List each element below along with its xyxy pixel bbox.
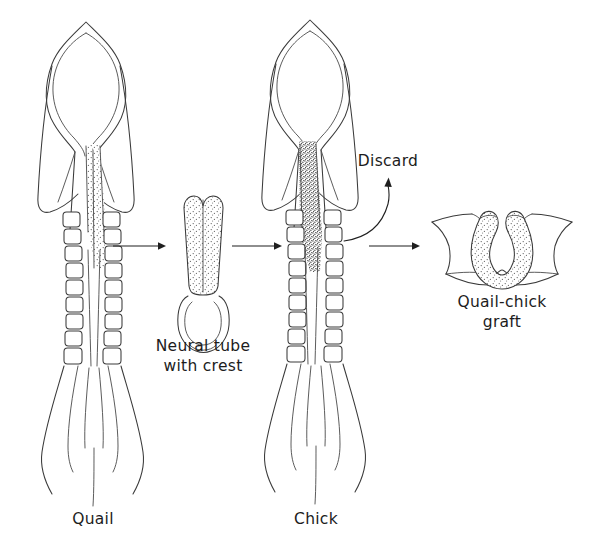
graft-host-right-body xyxy=(554,222,572,274)
diagram-root: Neural tube with crest xyxy=(0,0,591,544)
graft-host-left-body xyxy=(432,222,450,274)
discard-arrow-head xyxy=(384,178,391,188)
chick-tail-left-outer xyxy=(264,364,287,492)
chick-label: Chick xyxy=(294,510,338,528)
graft-host-right-upper xyxy=(532,214,572,222)
graft-label-line1: Quail-chick xyxy=(457,293,546,311)
neural-tube-label-line1: Neural tube xyxy=(156,337,251,355)
graft-neural-tube-fill xyxy=(471,211,532,289)
quail-tail-midline-right xyxy=(99,368,103,448)
neural-tube-explant-group: Neural tube with crest xyxy=(156,196,251,375)
quail-somites-right xyxy=(103,212,122,364)
chick-left-fold xyxy=(262,64,302,210)
chick-somites-right xyxy=(324,210,343,362)
arrow-chick-to-graft xyxy=(369,242,420,250)
quail-left-fold xyxy=(38,66,78,212)
chick-tail-left-inner xyxy=(291,364,301,470)
chick-tail-tip xyxy=(315,446,316,504)
quail-tail-left-inner xyxy=(68,366,78,472)
quail-head-inner xyxy=(53,33,119,156)
chick-right-fold xyxy=(318,64,358,210)
explant-stipple-fill xyxy=(184,196,223,295)
graft-host-left-upper xyxy=(432,214,472,222)
quail-tail-right-outer xyxy=(121,366,144,494)
graft-label-line2: graft xyxy=(483,313,521,331)
quail-tail-left-outer xyxy=(41,366,64,494)
chick-tail-midline-right xyxy=(321,366,325,446)
discard-arrow-curve xyxy=(344,185,389,241)
discard-label: Discard xyxy=(358,152,418,170)
chick-tail-right-inner xyxy=(330,364,340,470)
chick-somites-left xyxy=(286,210,306,362)
arrow-discard: Discard xyxy=(344,152,418,241)
quail-label: Quail xyxy=(72,510,114,528)
arrow-tube-to-chick xyxy=(232,242,282,250)
chick-embryo-group xyxy=(262,20,366,504)
quail-tail-right-inner xyxy=(108,366,118,472)
quail-tail-midline-left xyxy=(85,368,89,448)
neural-tube-label-line2: with crest xyxy=(163,357,242,375)
chick-tail-right-outer xyxy=(343,364,366,492)
chick-tail-midline-left xyxy=(307,366,311,446)
graft-result-group: Quail-chick graft xyxy=(432,211,572,331)
quail-somites-left xyxy=(63,212,83,364)
quail-embryo-group xyxy=(38,22,144,506)
quail-chick-graft-figure: Neural tube with crest xyxy=(0,0,591,544)
quail-tail-tip xyxy=(93,448,94,506)
quail-head-outer xyxy=(46,22,126,230)
chick-head-inner xyxy=(277,31,343,154)
